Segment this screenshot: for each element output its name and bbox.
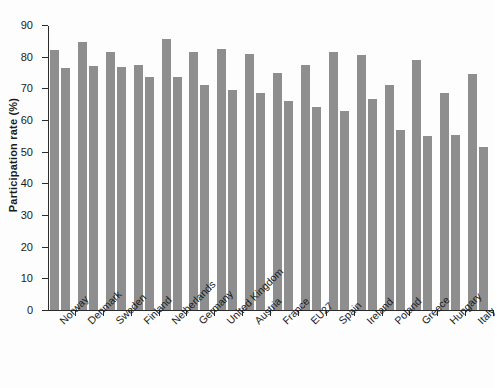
bar [50,50,59,310]
y-axis-tick: 10 [42,278,48,279]
bar-group [161,26,189,310]
bar-group [411,26,439,310]
bar [368,99,377,310]
bar-group [467,26,495,310]
bar [200,85,209,310]
bar [78,42,87,310]
y-axis-tick: 0 [42,310,48,311]
bar [440,93,449,310]
y-axis-tick: 30 [42,215,48,216]
y-axis-tick-label: 70 [21,80,33,96]
y-axis-tick: 50 [42,152,48,153]
bar [340,111,349,311]
y-axis-tick-label: 10 [21,270,33,286]
bar-group [188,26,216,310]
x-axis-labels: NorwayDenmarkSwedenFinlandNetherlandsGer… [48,318,494,388]
bar-series-container [49,26,494,310]
bar [284,101,293,310]
y-axis-tick-label: 60 [21,112,33,128]
y-axis-tick-label: 90 [21,17,33,33]
bar [396,130,405,311]
bar-group [300,26,328,310]
bar-group [49,26,77,310]
bar [217,49,226,310]
y-axis-tick-label: 30 [21,207,33,223]
bar [145,77,154,310]
y-axis-tick-label: 20 [21,239,33,255]
y-axis-tick: 20 [42,247,48,248]
bar-group [328,26,356,310]
y-axis-tick: 80 [42,57,48,58]
bar [173,77,182,310]
y-axis-title-text: Participation rate (%) [7,98,19,212]
bar [385,85,394,310]
bar [61,68,70,310]
y-axis-tick-label: 80 [21,49,33,65]
bar [89,66,98,310]
bar-group [384,26,412,310]
bar [479,147,488,310]
y-axis-tick: 90 [42,25,48,26]
y-axis-tick-label: 50 [21,144,33,160]
bar [357,55,366,310]
bar [451,135,460,310]
bar [106,52,115,310]
bar-group [77,26,105,310]
bar [134,65,143,310]
bar [245,54,254,311]
bar [329,52,338,310]
y-axis-tick: 60 [42,120,48,121]
bar [301,65,310,310]
y-axis-tick: 70 [42,88,48,89]
y-axis-tick: 40 [42,183,48,184]
y-axis-tick-label: 40 [21,175,33,191]
bar-group [244,26,272,310]
bar [162,39,171,310]
plot-area: 0102030405060708090 [48,26,494,311]
bar-group [133,26,161,310]
bar [189,52,198,310]
y-axis-tick-label: 0 [27,302,33,318]
bar [412,60,421,310]
bar-group [105,26,133,310]
bar-group [356,26,384,310]
bar-group [439,26,467,310]
bar [423,136,432,310]
bar [468,74,477,310]
bar-group [216,26,244,310]
bar [312,107,321,310]
bar [117,67,126,310]
bar [228,90,237,310]
